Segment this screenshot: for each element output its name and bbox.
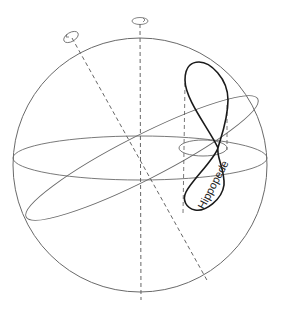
rotation-arrow-icon-vertical	[132, 18, 148, 25]
rotation-arrow-icon-tilted	[62, 29, 80, 45]
equator-ellipse	[13, 136, 267, 180]
tilted-great-circle	[16, 79, 268, 236]
hippopede-diagram: Hippopede	[0, 0, 284, 313]
diagram-canvas: Hippopede	[0, 0, 284, 313]
